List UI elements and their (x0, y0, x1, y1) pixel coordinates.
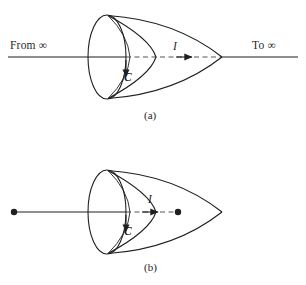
label-contour-b: C (124, 226, 132, 238)
label-from-infinity: From ∞ (10, 40, 47, 52)
label-contour-a: C (124, 72, 132, 84)
label-current-a: I (173, 41, 177, 53)
surface-outer-upper-edge-b (108, 171, 222, 213)
label-current-b: I (148, 194, 152, 206)
label-to-infinity: To ∞ (252, 40, 276, 52)
caption-panel-a: (a) (144, 110, 156, 121)
caption-panel-b: (b) (144, 262, 157, 273)
wire-endpoint-right-b (175, 209, 181, 215)
figure-container: From ∞ To ∞ I C (a) I C (b) (0, 0, 306, 285)
surface-outer-upper-edge-a (108, 16, 222, 58)
panel-b (11, 170, 222, 254)
wire-endpoint-left-b (11, 209, 17, 215)
panel-a (8, 15, 298, 99)
